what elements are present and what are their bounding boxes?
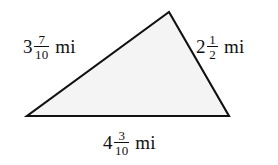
side-right-numerator: 1: [208, 33, 217, 47]
side-right-fraction: 1 2: [207, 33, 218, 62]
triangle-polygon: [27, 12, 229, 116]
side-left-fraction: 7 10: [34, 33, 49, 62]
side-bottom-unit: mi: [135, 133, 155, 152]
side-label-right: 2 1 2 mi: [196, 32, 244, 61]
side-left-unit: mi: [55, 37, 75, 56]
side-right-unit: mi: [224, 37, 244, 56]
side-bottom-denominator: 10: [114, 143, 129, 157]
side-left-whole-number: 3: [23, 37, 33, 56]
side-right-whole-number: 2: [196, 37, 206, 56]
side-bottom-fraction: 3 10: [114, 129, 129, 158]
side-label-bottom: 4 3 10 mi: [103, 128, 156, 157]
triangle-figure: 3 7 10 mi 2 1 2 mi 4 3 10 mi: [0, 0, 278, 165]
side-bottom-whole-number: 4: [103, 133, 113, 152]
side-left-numerator: 7: [37, 33, 46, 47]
side-bottom-numerator: 3: [117, 129, 126, 143]
side-label-left: 3 7 10 mi: [23, 32, 76, 61]
side-left-denominator: 10: [34, 47, 49, 61]
side-right-denominator: 2: [208, 47, 217, 61]
